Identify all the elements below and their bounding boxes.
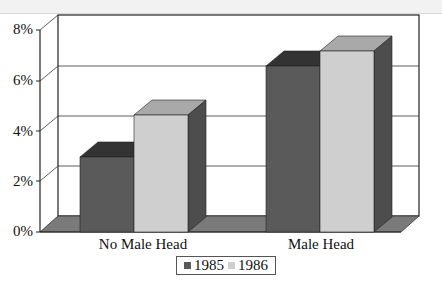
legend-swatch-1985 [184,262,191,269]
legend-swatch-1986 [228,262,235,269]
legend: 1985 1986 [176,256,276,275]
y-tick-0: 0% [13,223,33,239]
category-label-male-head: Male Head [288,236,355,252]
y-tick-4: 4% [13,123,33,139]
bar-male-head-1986 [320,36,392,232]
y-tick-2: 2% [13,173,33,189]
y-tick-8: 8% [13,21,33,37]
legend-item-1985: 1985 [184,257,224,274]
bar-no-male-head-1986 [134,100,206,232]
legend-label-1986: 1986 [238,257,268,274]
chart-canvas: 0% 2% 4% 6% 8% No Male Head Male Head [0,0,442,283]
legend-label-1985: 1985 [194,257,224,274]
category-label-no-male-head: No Male Head [99,236,188,252]
legend-item-1986: 1986 [228,257,268,274]
y-tick-6: 6% [13,72,33,88]
